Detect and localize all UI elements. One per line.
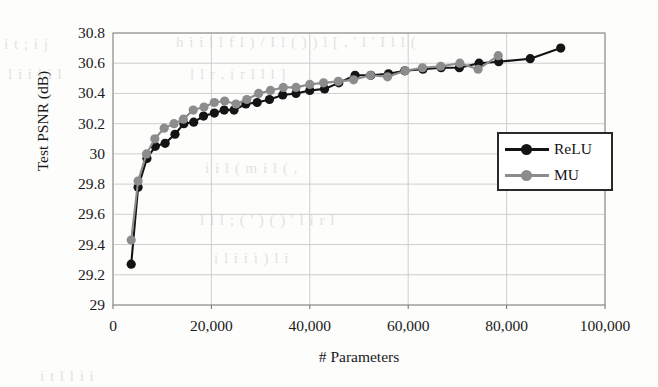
x-tick-label: 40,000	[265, 317, 355, 335]
y-tick-label: 30.2	[47, 115, 105, 133]
legend-entry-mu: MU	[505, 163, 579, 187]
chart-legend: ReLU MU	[497, 132, 613, 191]
chart-figure: i t ; i jl i i l i lh i i l l f l ) / I …	[0, 0, 658, 387]
data-point	[319, 78, 328, 87]
data-point	[127, 235, 136, 244]
y-tick-label: 29	[47, 296, 105, 314]
data-point	[220, 105, 229, 114]
legend-label-relu: ReLU	[554, 141, 592, 157]
data-point	[189, 105, 198, 114]
data-point	[401, 66, 410, 75]
data-point	[473, 65, 482, 74]
x-tick-label: 80,000	[462, 317, 552, 335]
y-tick-label: 29.2	[47, 266, 105, 284]
data-point	[142, 149, 151, 158]
y-axis-title: Test PSNR (dB)	[34, 31, 52, 211]
y-tick-label: 30.6	[47, 54, 105, 72]
data-point	[231, 99, 240, 108]
data-point	[349, 75, 358, 84]
data-point	[291, 83, 300, 92]
axis-ticks	[113, 305, 605, 309]
legend-label-mu: MU	[554, 167, 579, 183]
data-point	[189, 118, 198, 127]
legend-entry-relu: ReLU	[505, 137, 592, 161]
data-point	[253, 98, 262, 107]
data-point	[383, 72, 392, 81]
data-point	[161, 139, 170, 148]
y-tick-label: 29.8	[47, 175, 105, 193]
data-point	[220, 96, 229, 105]
y-tick-label: 29.4	[47, 236, 105, 254]
data-point	[242, 95, 251, 104]
y-tick-label: 30	[47, 145, 105, 163]
data-point	[436, 62, 445, 71]
x-tick-label: 100,000	[560, 317, 650, 335]
data-point	[279, 83, 288, 92]
y-tick-label: 29.6	[47, 205, 105, 223]
legend-marker-mu	[505, 168, 549, 182]
x-tick-label: 60,000	[363, 317, 453, 335]
data-point	[150, 134, 159, 143]
data-point	[526, 54, 535, 63]
data-point	[199, 112, 208, 121]
data-point	[210, 98, 219, 107]
data-point	[266, 86, 275, 95]
x-tick-label: 0	[68, 317, 158, 335]
data-point	[494, 51, 503, 60]
data-point	[210, 108, 219, 117]
data-point	[127, 260, 136, 269]
data-point	[179, 115, 188, 124]
data-point	[170, 130, 179, 139]
legend-marker-relu	[505, 142, 549, 156]
series-mu	[127, 51, 503, 245]
series-line-mu	[131, 56, 498, 240]
data-point	[160, 124, 169, 133]
data-point	[418, 63, 427, 72]
data-point	[265, 95, 274, 104]
y-tick-label: 30.8	[47, 24, 105, 42]
data-point	[169, 119, 178, 128]
data-point	[556, 44, 565, 53]
data-point	[305, 80, 314, 89]
data-point	[199, 102, 208, 111]
data-point	[133, 176, 142, 185]
data-point	[366, 71, 375, 80]
data-point	[334, 77, 343, 86]
x-tick-label: 20,000	[166, 317, 256, 335]
data-point	[455, 59, 464, 68]
data-point	[254, 89, 263, 98]
y-tick-label: 30.4	[47, 84, 105, 102]
x-axis-title: # Parameters	[113, 348, 605, 366]
